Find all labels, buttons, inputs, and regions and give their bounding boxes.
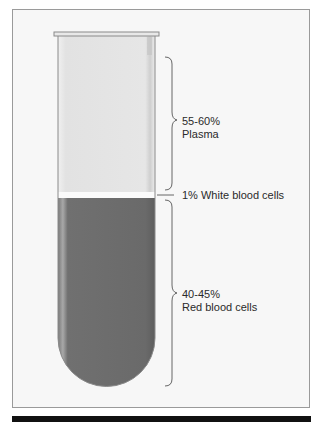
test-tube [54,32,159,386]
bottom-rule [12,416,311,422]
plasma-name: Plasma [182,128,220,141]
rbc-percent: 40-45% [182,288,257,301]
rbc-brace [165,200,177,386]
plasma-label: 55-60% Plasma [182,115,220,141]
tube-rim [54,32,159,36]
plasma-percent: 55-60% [182,115,220,128]
white-blood-cells-layer [58,192,155,198]
plasma-brace [165,57,177,190]
rbc-label: 40-45% Red blood cells [182,288,257,314]
test-tube-diagram [0,0,323,422]
red-blood-cells-layer [58,198,155,386]
rbc-name: Red blood cells [182,301,257,314]
wbc-label: 1% White blood cells [182,189,284,202]
plasma-layer [58,36,155,193]
